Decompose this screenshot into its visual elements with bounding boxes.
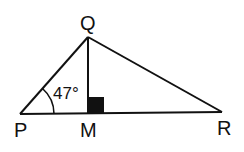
segment-qr [88,37,222,112]
point-label-q: Q [80,12,96,34]
angle-label-p: 47° [53,84,79,103]
right-angle-marker-icon [88,97,104,113]
triangle-diagram: 47° Q P M R [0,0,244,152]
point-label-m: M [80,119,97,141]
point-label-p: P [14,119,27,141]
segment-pr [20,112,222,114]
point-label-r: R [217,117,231,139]
